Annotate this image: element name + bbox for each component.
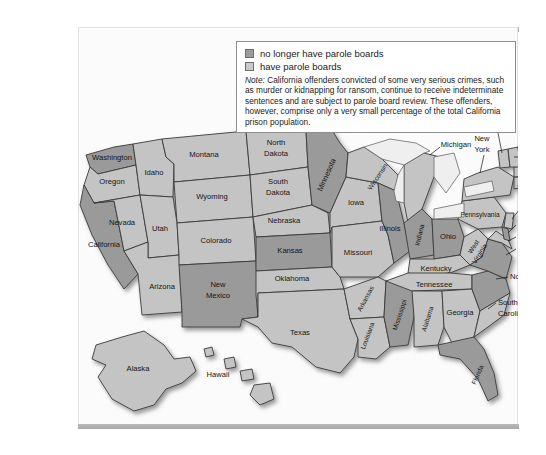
note-prefix: Note: (245, 75, 265, 85)
legend-label-have-parole: have parole boards (260, 61, 341, 72)
note-body: California offenders convicted of some v… (245, 75, 504, 127)
legend-item-no-parole: no longer have parole boards (245, 48, 507, 59)
legend-note: Note: California offenders convicted of … (245, 75, 507, 127)
legend-swatch-have-parole-icon (245, 62, 254, 71)
legend-note-box: no longer have parole boards have parole… (236, 41, 516, 133)
bottom-rule (78, 424, 519, 429)
legend-item-have-parole: have parole boards (245, 61, 507, 72)
legend-swatch-no-parole-icon (245, 49, 254, 58)
figure-page: Washington Oregon California Nevada Idah… (0, 0, 546, 455)
legend-label-no-parole: no longer have parole boards (260, 48, 384, 59)
